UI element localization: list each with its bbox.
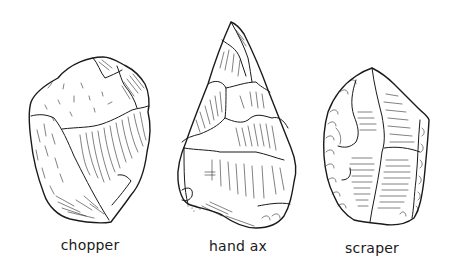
hand-ax-label: hand ax xyxy=(209,238,267,254)
chopper-label: chopper xyxy=(61,237,120,253)
chopper-drawing xyxy=(29,57,150,223)
scraper-drawing xyxy=(324,68,429,225)
stone-tools-illustration xyxy=(0,0,452,273)
hand-ax-drawing xyxy=(178,22,296,228)
scraper-label: scraper xyxy=(345,240,399,256)
stone-tools-figure: chopper hand ax scraper xyxy=(0,0,452,273)
